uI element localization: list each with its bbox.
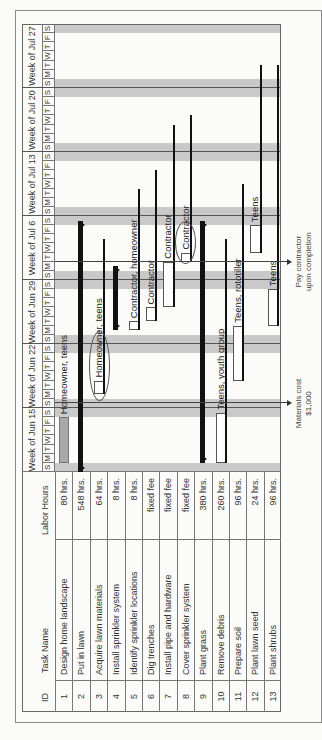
row-divider xyxy=(159,472,160,712)
day-letter: M xyxy=(44,134,52,143)
resource-label: Teens xyxy=(268,261,278,286)
task-name: Cover sprinkler system xyxy=(182,583,191,675)
day-letter: M xyxy=(44,70,52,79)
highlight-oval xyxy=(89,331,110,401)
task-labor-hours: 24 hrs. xyxy=(251,478,260,540)
task-id: 11 xyxy=(234,681,243,712)
day-letter: M xyxy=(44,454,52,463)
week-divider xyxy=(22,151,281,152)
task-labor-hours: 96 hrs. xyxy=(234,478,243,540)
summary-end-marker xyxy=(79,221,85,229)
task-name: Install sprinkler system xyxy=(112,584,121,675)
summary-end-marker xyxy=(201,221,207,229)
day-letter: S xyxy=(44,408,52,417)
task-id: 6 xyxy=(147,681,156,712)
resource-label: Teens, youth group xyxy=(216,329,226,410)
day-letter: W xyxy=(44,243,52,252)
day-letter: S xyxy=(44,24,52,33)
day-letter: T xyxy=(44,234,52,243)
row-divider xyxy=(194,472,195,712)
day-letter: W xyxy=(44,307,52,316)
task-labor-hours: 96 hrs. xyxy=(269,478,278,540)
row-divider xyxy=(107,472,108,712)
day-header-divider xyxy=(54,24,55,472)
task-id: 13 xyxy=(269,681,278,712)
task-labor-hours: 380 hrs. xyxy=(199,478,208,540)
day-letter: T xyxy=(44,317,52,326)
task-id: 8 xyxy=(182,681,191,712)
day-letter: S xyxy=(44,216,52,225)
day-letter: T xyxy=(44,170,52,179)
day-letter: T xyxy=(44,42,52,51)
day-letter: W xyxy=(44,435,52,444)
task-name: Prepare soil xyxy=(234,627,243,675)
day-letter: S xyxy=(44,399,52,408)
resource-label: Teens, rototiller xyxy=(233,258,243,322)
week-label: Week of Jul 13 xyxy=(28,152,37,216)
task-bar xyxy=(59,417,69,463)
day-letter: F xyxy=(44,225,52,234)
day-letter: S xyxy=(44,143,52,152)
summary-start-marker xyxy=(79,464,85,472)
task-id: 9 xyxy=(199,681,208,712)
week-label: Week of Jul 6 xyxy=(28,216,37,280)
day-letter: F xyxy=(44,161,52,170)
task-name: Design home landscape xyxy=(60,578,69,675)
day-letter: T xyxy=(44,381,52,390)
week-divider xyxy=(22,87,281,88)
task-labor-hours: fixed fee xyxy=(182,478,191,540)
task-name: Install pipe and hardware xyxy=(164,574,173,675)
task-labor-hours: 260 hrs. xyxy=(217,478,226,540)
row-divider xyxy=(72,472,73,712)
header-task-name: Task Name xyxy=(41,628,50,673)
slack-line xyxy=(277,65,279,326)
task-name: Remove debris xyxy=(217,614,226,675)
row-divider xyxy=(90,472,91,712)
row-divider xyxy=(229,472,230,712)
day-letter: T xyxy=(44,125,52,134)
task-name: Identify sprinkler locations xyxy=(130,571,139,675)
day-letter: W xyxy=(44,115,52,124)
summary-bar xyxy=(200,221,205,463)
pay-contractor-annotation-line2: upon completion xyxy=(304,227,313,297)
day-letter: M xyxy=(44,198,52,207)
materials-cost-annotation-line2: $1,000 xyxy=(304,373,313,433)
week-label: Week of Jul 27 xyxy=(28,24,37,88)
row-divider xyxy=(246,472,247,712)
task-labor-hours: 548 hrs. xyxy=(77,478,86,540)
resource-label: Teens xyxy=(250,197,260,222)
row-divider xyxy=(142,472,143,712)
task-labor-hours: 8 hrs. xyxy=(112,478,121,540)
summary-bar xyxy=(78,221,83,472)
summary-bar xyxy=(113,266,118,330)
day-letter: T xyxy=(44,106,52,115)
task-name: Plant shrubs xyxy=(269,625,278,675)
day-letter: S xyxy=(44,79,52,88)
day-letter: F xyxy=(44,97,52,106)
summary-start-marker xyxy=(201,455,207,463)
task-id: 10 xyxy=(217,681,226,712)
task-labor-hours: fixed fee xyxy=(164,478,173,540)
milestone-line xyxy=(55,261,287,262)
task-name: Acquire lawn materials xyxy=(95,584,104,675)
day-letter: T xyxy=(44,189,52,198)
row-divider xyxy=(264,472,265,712)
gantt-page: IDTask NameLabor HoursWeek of Jun 15SMTW… xyxy=(0,0,322,740)
summary-end-marker xyxy=(114,266,120,274)
week-label: Week of Jun 29 xyxy=(28,280,37,344)
day-letter: S xyxy=(44,271,52,280)
week-label: Week of Jun 22 xyxy=(28,344,37,408)
week-label: Week of Jun 15 xyxy=(28,408,37,472)
task-id: 2 xyxy=(77,681,86,712)
day-letter: T xyxy=(44,426,52,435)
task-id: 12 xyxy=(251,681,260,712)
slack-line xyxy=(173,125,175,308)
day-letter: F xyxy=(44,289,52,298)
row-divider xyxy=(212,472,213,712)
materials-cost-annotation-line1: Materials cost xyxy=(294,373,303,433)
slack-line xyxy=(260,65,262,252)
row-divider xyxy=(177,472,178,712)
task-name: Plant grass xyxy=(199,630,208,675)
resource-label: Contractor, homeowner xyxy=(129,219,139,318)
day-letter: M xyxy=(44,326,52,335)
